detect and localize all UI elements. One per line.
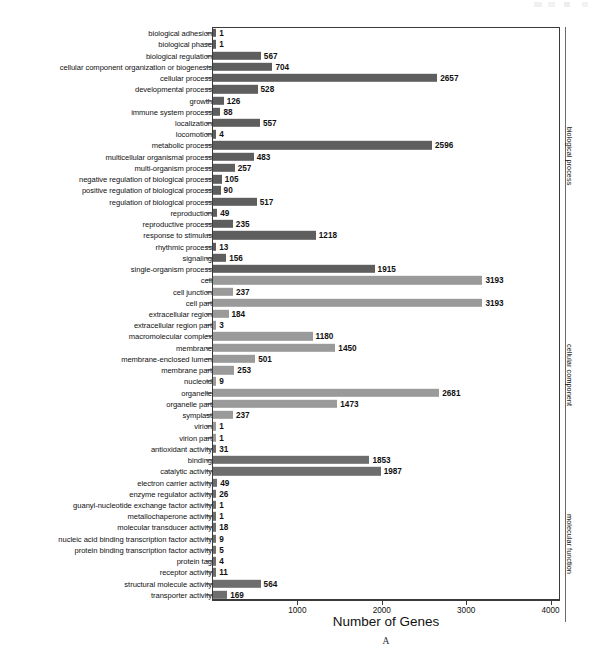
bar — [213, 490, 216, 498]
bar-value-label: 13 — [219, 242, 228, 251]
bar-value-label: 2681 — [442, 388, 460, 397]
category-label: biological regulation — [146, 51, 212, 60]
category-tick — [206, 482, 212, 483]
bar — [213, 478, 217, 486]
bar-value-label: 253 — [237, 366, 251, 375]
bar-value-label: 1 — [219, 29, 224, 38]
bar-value-label: 1 — [219, 422, 224, 431]
bar — [213, 343, 335, 351]
category-tick — [206, 212, 212, 213]
bar-value-label: 1180 — [316, 332, 334, 341]
category-tick — [206, 190, 212, 191]
bar — [213, 164, 235, 172]
category-label: single-organism process — [131, 265, 212, 274]
bar — [213, 231, 316, 239]
bar-value-label: 3193 — [485, 276, 503, 285]
group-label-text: biological process — [565, 127, 574, 186]
bar-value-label: 9 — [219, 377, 224, 386]
bar — [213, 512, 216, 520]
bar-value-label: 4 — [219, 130, 224, 139]
bar — [213, 445, 216, 453]
bar — [213, 130, 216, 138]
bar-value-label: 237 — [236, 411, 250, 420]
category-label: structural molecule activity — [124, 579, 212, 588]
bar-value-label: 1 — [219, 500, 224, 509]
category-label: extracellular region — [149, 309, 212, 318]
category-tick — [206, 381, 212, 382]
category-tick — [206, 336, 212, 337]
category-label: guanyl-nucleotide exchange factor activi… — [73, 500, 212, 509]
bar — [213, 366, 234, 374]
bar-value-label: 156 — [229, 253, 243, 262]
bar — [213, 332, 313, 340]
x-tick — [382, 600, 383, 605]
category-tick — [206, 33, 212, 34]
bar — [213, 546, 216, 554]
x-tick — [466, 600, 467, 605]
bar — [213, 287, 233, 295]
category-label: multicellular organismal process — [106, 152, 212, 161]
category-tick — [206, 583, 212, 584]
bar-value-label: 1 — [219, 40, 224, 49]
bar-value-label: 1987 — [384, 467, 402, 476]
group-label: molecular function — [565, 544, 574, 604]
bar — [213, 579, 261, 587]
bar — [213, 108, 220, 116]
bar — [213, 74, 437, 82]
category-label: macromolecular complex — [129, 332, 212, 341]
category-label: extracellular region part — [134, 321, 212, 330]
bar — [213, 501, 216, 509]
bar — [213, 456, 369, 464]
category-tick — [206, 201, 212, 202]
category-tick — [206, 246, 212, 247]
category-tick — [206, 460, 212, 461]
category-label: protein binding transcription factor act… — [75, 545, 212, 554]
category-tick — [206, 415, 212, 416]
category-label: membrane part — [161, 366, 212, 375]
group-bracket: molecular function — [560, 465, 610, 622]
bar-value-label: 11 — [219, 568, 228, 577]
category-tick — [206, 89, 212, 90]
category-label: negative regulation of biological proces… — [79, 175, 212, 184]
category-tick — [206, 44, 212, 45]
category-tick — [206, 538, 212, 539]
category-tick — [206, 313, 212, 314]
bar-value-label: 1218 — [319, 231, 337, 240]
group-label-text: cellular component — [565, 344, 574, 406]
bar — [213, 209, 217, 217]
bar — [213, 411, 233, 419]
bar — [213, 534, 216, 542]
category-label: biological adhesion — [148, 29, 212, 38]
bar-value-label: 4 — [219, 557, 224, 566]
category-tick — [206, 358, 212, 359]
bar-value-label: 90 — [224, 186, 233, 195]
category-tick — [206, 167, 212, 168]
bar — [213, 388, 439, 396]
x-tick — [551, 600, 552, 605]
bar — [213, 265, 375, 273]
bar-value-label: 105 — [225, 175, 239, 184]
category-tick — [206, 280, 212, 281]
category-tick — [206, 122, 212, 123]
category-label: metabolic process — [152, 141, 212, 150]
bar — [213, 299, 482, 307]
category-tick — [206, 156, 212, 157]
category-tick — [206, 78, 212, 79]
category-tick — [206, 347, 212, 348]
category-label: receptor activity — [160, 568, 212, 577]
bar-value-label: 184 — [232, 309, 246, 318]
bar — [213, 591, 227, 599]
bar — [213, 557, 216, 565]
bar-value-label: 237 — [236, 287, 250, 296]
bar-value-label: 1473 — [340, 399, 358, 408]
category-tick — [206, 302, 212, 303]
bar — [213, 175, 222, 183]
bar — [213, 29, 216, 37]
category-tick — [206, 426, 212, 427]
bar-value-label: 126 — [227, 96, 241, 105]
bar-value-label: 564 — [264, 579, 278, 588]
bar-value-label: 88 — [223, 107, 232, 116]
bar — [213, 63, 272, 71]
group-label-text: molecular function — [565, 514, 574, 574]
bar — [213, 568, 216, 576]
